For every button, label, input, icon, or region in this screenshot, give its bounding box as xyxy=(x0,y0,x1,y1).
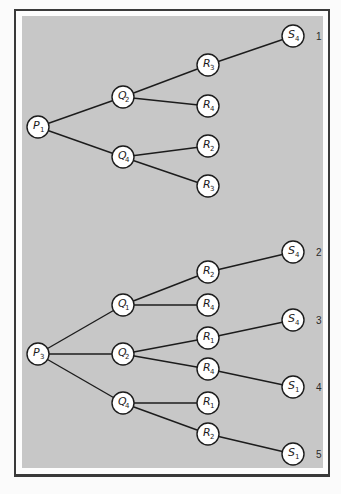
tree-node-p3: P3 xyxy=(27,343,49,365)
tree-node-q4: Q4 xyxy=(112,392,134,414)
node-subscript: 4 xyxy=(295,35,300,43)
tree-edge xyxy=(38,354,123,403)
node-subscript: 2 xyxy=(125,96,129,104)
node-subscript: 1 xyxy=(125,304,129,312)
node-subscript: 1 xyxy=(295,386,299,394)
tree-edge xyxy=(208,36,293,65)
tree-node-r2: R2 xyxy=(197,135,219,157)
node-subscript: 4 xyxy=(125,402,130,410)
node-subscript: 1 xyxy=(210,337,214,345)
tree-node-s1: S1 xyxy=(282,443,304,465)
node-letter: S xyxy=(288,244,295,257)
node-subscript: 4 xyxy=(210,105,215,113)
node-subscript: 2 xyxy=(125,353,129,361)
tree-edge xyxy=(123,65,208,97)
node-subscript: 3 xyxy=(210,185,214,193)
tree-node-r1: R1 xyxy=(197,327,219,349)
tree-edge xyxy=(208,434,293,454)
tree-node-s4: S4 xyxy=(282,25,304,47)
node-letter: S xyxy=(288,446,295,459)
tree-node-r2: R2 xyxy=(197,423,219,445)
node-subscript: 3 xyxy=(40,353,44,361)
node-subscript: 1 xyxy=(40,126,44,134)
tree-edge xyxy=(123,338,208,354)
tree-node-r1: R1 xyxy=(197,392,219,414)
node-subscript: 1 xyxy=(295,453,299,461)
tree-node-p1: P1 xyxy=(27,116,49,138)
tree-edge xyxy=(208,369,293,387)
tree-node-s4: S4 xyxy=(282,241,304,263)
path-number-label: 4 xyxy=(316,382,322,393)
tree-edge xyxy=(123,97,208,106)
path-number-label: 2 xyxy=(316,247,322,258)
tree-node-q4: Q4 xyxy=(112,146,134,168)
tree-node-r4: R4 xyxy=(197,95,219,117)
node-subscript: 3 xyxy=(210,64,214,72)
path-labels-layer: 12345 xyxy=(316,31,322,460)
tree-diagram: P1Q2Q4R3R4R2R3S4P3Q1Q2Q4R2R4R1R4R1R2S4S4… xyxy=(0,0,341,494)
tree-edge xyxy=(123,157,208,186)
node-subscript: 4 xyxy=(210,368,215,376)
node-letter: S xyxy=(288,28,295,41)
node-subscript: 4 xyxy=(295,251,300,259)
node-letter: P xyxy=(33,346,40,359)
tree-node-r4: R4 xyxy=(197,294,219,316)
node-letter: P xyxy=(33,119,40,132)
tree-node-s1: S1 xyxy=(282,376,304,398)
tree-node-q2: Q2 xyxy=(112,86,134,108)
edges-layer xyxy=(38,36,293,454)
tree-edge xyxy=(38,97,123,127)
tree-edge xyxy=(123,272,208,305)
tree-edge xyxy=(208,252,293,272)
path-number-label: 5 xyxy=(316,449,322,460)
node-subscript: 4 xyxy=(125,156,130,164)
tree-node-q2: Q2 xyxy=(112,343,134,365)
tree-node-q1: Q1 xyxy=(112,294,134,316)
node-letter: S xyxy=(288,379,295,392)
tree-edge xyxy=(123,354,208,369)
node-subscript: 2 xyxy=(210,271,214,279)
tree-edge xyxy=(123,403,208,434)
node-subscript: 4 xyxy=(295,319,300,327)
path-number-label: 1 xyxy=(316,31,322,42)
node-letter: S xyxy=(288,312,295,325)
node-subscript: 2 xyxy=(210,433,214,441)
tree-edge xyxy=(123,146,208,157)
tree-node-r3: R3 xyxy=(197,175,219,197)
nodes-layer: P1Q2Q4R3R4R2R3S4P3Q1Q2Q4R2R4R1R4R1R2S4S4… xyxy=(27,25,304,465)
node-subscript: 2 xyxy=(210,145,214,153)
tree-edge xyxy=(38,127,123,157)
tree-node-r2: R2 xyxy=(197,261,219,283)
node-subscript: 4 xyxy=(210,304,215,312)
tree-node-r4: R4 xyxy=(197,358,219,380)
path-number-label: 3 xyxy=(316,315,322,326)
tree-edge xyxy=(208,320,293,338)
tree-node-r3: R3 xyxy=(197,54,219,76)
node-subscript: 1 xyxy=(210,402,214,410)
tree-edge xyxy=(38,305,123,354)
tree-node-s4: S4 xyxy=(282,309,304,331)
